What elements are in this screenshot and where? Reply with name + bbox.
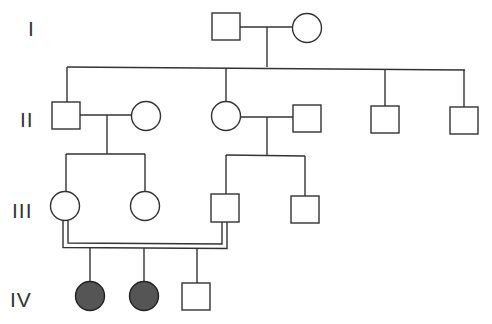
individual-III-4-male	[291, 196, 319, 223]
consanguineous-marriage-line	[63, 221, 227, 249]
individual-II-5-male	[371, 106, 399, 133]
pedigree-diagram	[0, 0, 492, 324]
individual-III-2-female	[131, 192, 160, 221]
individual-II-6-male	[450, 107, 478, 134]
individual-II-4-male	[293, 105, 321, 132]
individual-III-3-male	[211, 194, 239, 222]
individual-I-2-female	[293, 14, 322, 43]
sibship-line-II	[67, 67, 465, 70]
individual-II-3-female	[212, 102, 241, 131]
individual-II-2-female	[132, 102, 161, 131]
individual-IV-1-female-affected	[76, 282, 105, 311]
individual-II-1-male	[52, 102, 80, 129]
individual-IV-2-female-affected	[130, 282, 159, 311]
individual-I-1-male	[212, 13, 240, 40]
individual-IV-3-male	[182, 283, 210, 310]
individual-III-1-female	[51, 192, 80, 221]
sibship-line-III-b	[226, 155, 305, 156]
